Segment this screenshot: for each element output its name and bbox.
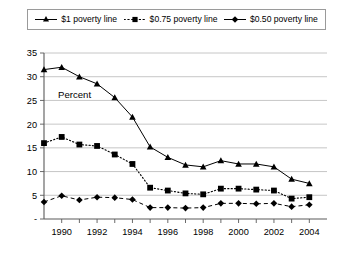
series-2	[41, 134, 312, 201]
legend-label-dollar1: $1 poverty line	[61, 15, 117, 24]
data-point-marker	[147, 144, 154, 150]
x-tick-label: 1996	[158, 227, 178, 237]
y-tick-label: 35	[27, 48, 37, 58]
y-axis-ticks	[40, 53, 44, 219]
data-point-marker	[288, 203, 295, 210]
legend-entry-dollar075: $0.75 poverty line	[124, 14, 218, 25]
data-point-marker	[218, 200, 225, 207]
chart-canvas: -5101520253035 1990199219941996199820002…	[0, 30, 350, 259]
legend-label-dollar050: $0.50 poverty line	[250, 15, 318, 24]
x-axis-labels: 19901992199419961998200020022004	[51, 227, 319, 237]
data-point-marker	[289, 196, 295, 202]
data-point-marker	[130, 161, 136, 167]
data-point-marker	[165, 204, 172, 211]
y-tick-label: 20	[27, 120, 37, 130]
series-line	[44, 137, 309, 199]
y-tick-label: 15	[27, 143, 37, 153]
data-point-marker	[76, 142, 82, 148]
data-point-marker	[58, 192, 65, 199]
data-point-marker	[218, 186, 224, 192]
data-point-marker	[200, 191, 206, 197]
legend-entry-dollar050: $0.50 poverty line	[224, 14, 318, 25]
legend-entry-dollar1: $1 poverty line	[35, 14, 117, 25]
data-point-marker	[129, 196, 136, 203]
triangle-marker-icon	[35, 14, 57, 25]
data-point-marker	[200, 204, 207, 211]
x-tick-label: 2000	[228, 227, 248, 237]
y-tick-label: 10	[27, 167, 37, 177]
y-tick-label: 5	[32, 191, 37, 201]
data-point-marker	[58, 64, 65, 70]
series-line	[44, 196, 309, 208]
x-tick-label: 2002	[264, 227, 284, 237]
series-line	[44, 67, 309, 183]
data-point-marker	[147, 185, 153, 191]
data-series	[41, 64, 313, 211]
x-axis-ticks	[62, 219, 310, 223]
y-axis-labels: -5101520253035	[27, 48, 37, 224]
data-point-marker	[218, 157, 225, 163]
legend-label-dollar075: $0.75 poverty line	[150, 15, 218, 24]
data-point-marker	[76, 197, 83, 204]
data-point-marker	[236, 186, 242, 192]
plot-area: -5101520253035 1990199219941996199820002…	[0, 30, 350, 259]
data-point-marker	[94, 81, 101, 87]
series-1	[41, 64, 313, 186]
data-point-marker	[271, 200, 278, 207]
data-point-marker	[288, 176, 295, 182]
x-tick-label: 1992	[87, 227, 107, 237]
square-marker-icon	[124, 14, 146, 25]
data-point-marker	[147, 204, 154, 211]
x-tick-label: 1998	[193, 227, 213, 237]
data-point-marker	[182, 205, 189, 212]
data-point-marker	[112, 152, 118, 158]
diamond-marker-icon	[224, 14, 246, 25]
y-tick-label: -	[34, 214, 37, 224]
y-tick-label: 25	[27, 96, 37, 106]
poverty-line-chart: $1 poverty line $0.75 poverty line $0.50…	[0, 0, 350, 259]
x-tick-label: 1994	[122, 227, 142, 237]
percent-annotation: Percent	[58, 89, 91, 100]
data-point-marker	[271, 188, 277, 194]
x-tick-label: 2004	[299, 227, 319, 237]
data-point-marker	[253, 187, 259, 193]
x-tick-label: 1990	[51, 227, 71, 237]
data-point-marker	[59, 134, 65, 140]
data-point-marker	[183, 190, 189, 196]
chart-legend: $1 poverty line $0.75 poverty line $0.50…	[27, 9, 326, 30]
data-point-marker	[182, 162, 189, 168]
data-point-marker	[235, 200, 242, 207]
data-point-marker	[253, 201, 260, 208]
data-point-marker	[306, 201, 313, 208]
data-point-marker	[41, 140, 47, 146]
data-point-marker	[306, 194, 312, 200]
data-point-marker	[165, 154, 172, 160]
data-point-marker	[94, 143, 100, 149]
data-point-marker	[165, 188, 171, 194]
data-point-marker	[41, 199, 48, 206]
data-point-marker	[94, 194, 101, 201]
y-tick-label: 30	[27, 72, 37, 82]
